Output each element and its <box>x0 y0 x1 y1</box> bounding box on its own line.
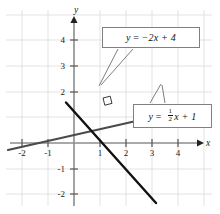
leader-lines-steep <box>99 49 133 86</box>
y-tick-label-2: 2 <box>61 87 66 97</box>
equation-shallow: y=12x + 1 <box>149 109 197 124</box>
y-tick-label--1: -1 <box>58 164 66 174</box>
equation-steep: y=−2x + 4 <box>126 32 176 43</box>
right-angle-marker <box>103 96 112 105</box>
y-tick-label-4: 4 <box>61 35 66 45</box>
equation-shallow-equals: = <box>156 111 162 122</box>
graph-figure: -2 -1 1 2 3 4 4 3 2 -1 -2 x y y <box>0 0 220 214</box>
x-tick-label--2: -2 <box>18 148 26 158</box>
x-tick-label--1: -1 <box>44 148 52 158</box>
y-axis-arrow <box>70 16 77 23</box>
y-tick-label-3: 3 <box>61 61 66 71</box>
x-tick-label-2: 2 <box>124 148 129 158</box>
x-tick-label-1: 1 <box>98 148 103 158</box>
y-tick-label--2: -2 <box>58 189 66 199</box>
equation-shallow-fraction: 12 <box>168 108 174 123</box>
fraction-denominator: 2 <box>168 115 174 123</box>
equation-shallow-rest: x + 1 <box>174 111 196 122</box>
x-axis-arrow <box>197 139 204 146</box>
equation-steep-equals: = <box>133 32 139 43</box>
equation-steep-lhs: y <box>126 32 131 43</box>
y-axis-label: y <box>73 5 79 15</box>
equation-callout-shallow: y=12x + 1 <box>133 104 212 128</box>
equation-shallow-lhs: y <box>149 111 154 122</box>
x-tick-label-3: 3 <box>150 148 155 158</box>
equation-callout-steep: y=−2x + 4 <box>102 27 200 48</box>
x-axis-label: x <box>205 138 211 148</box>
x-tick-label-4: 4 <box>176 148 181 158</box>
fraction-numerator: 1 <box>168 108 174 115</box>
equation-steep-rhs: −2x + 4 <box>142 32 176 43</box>
